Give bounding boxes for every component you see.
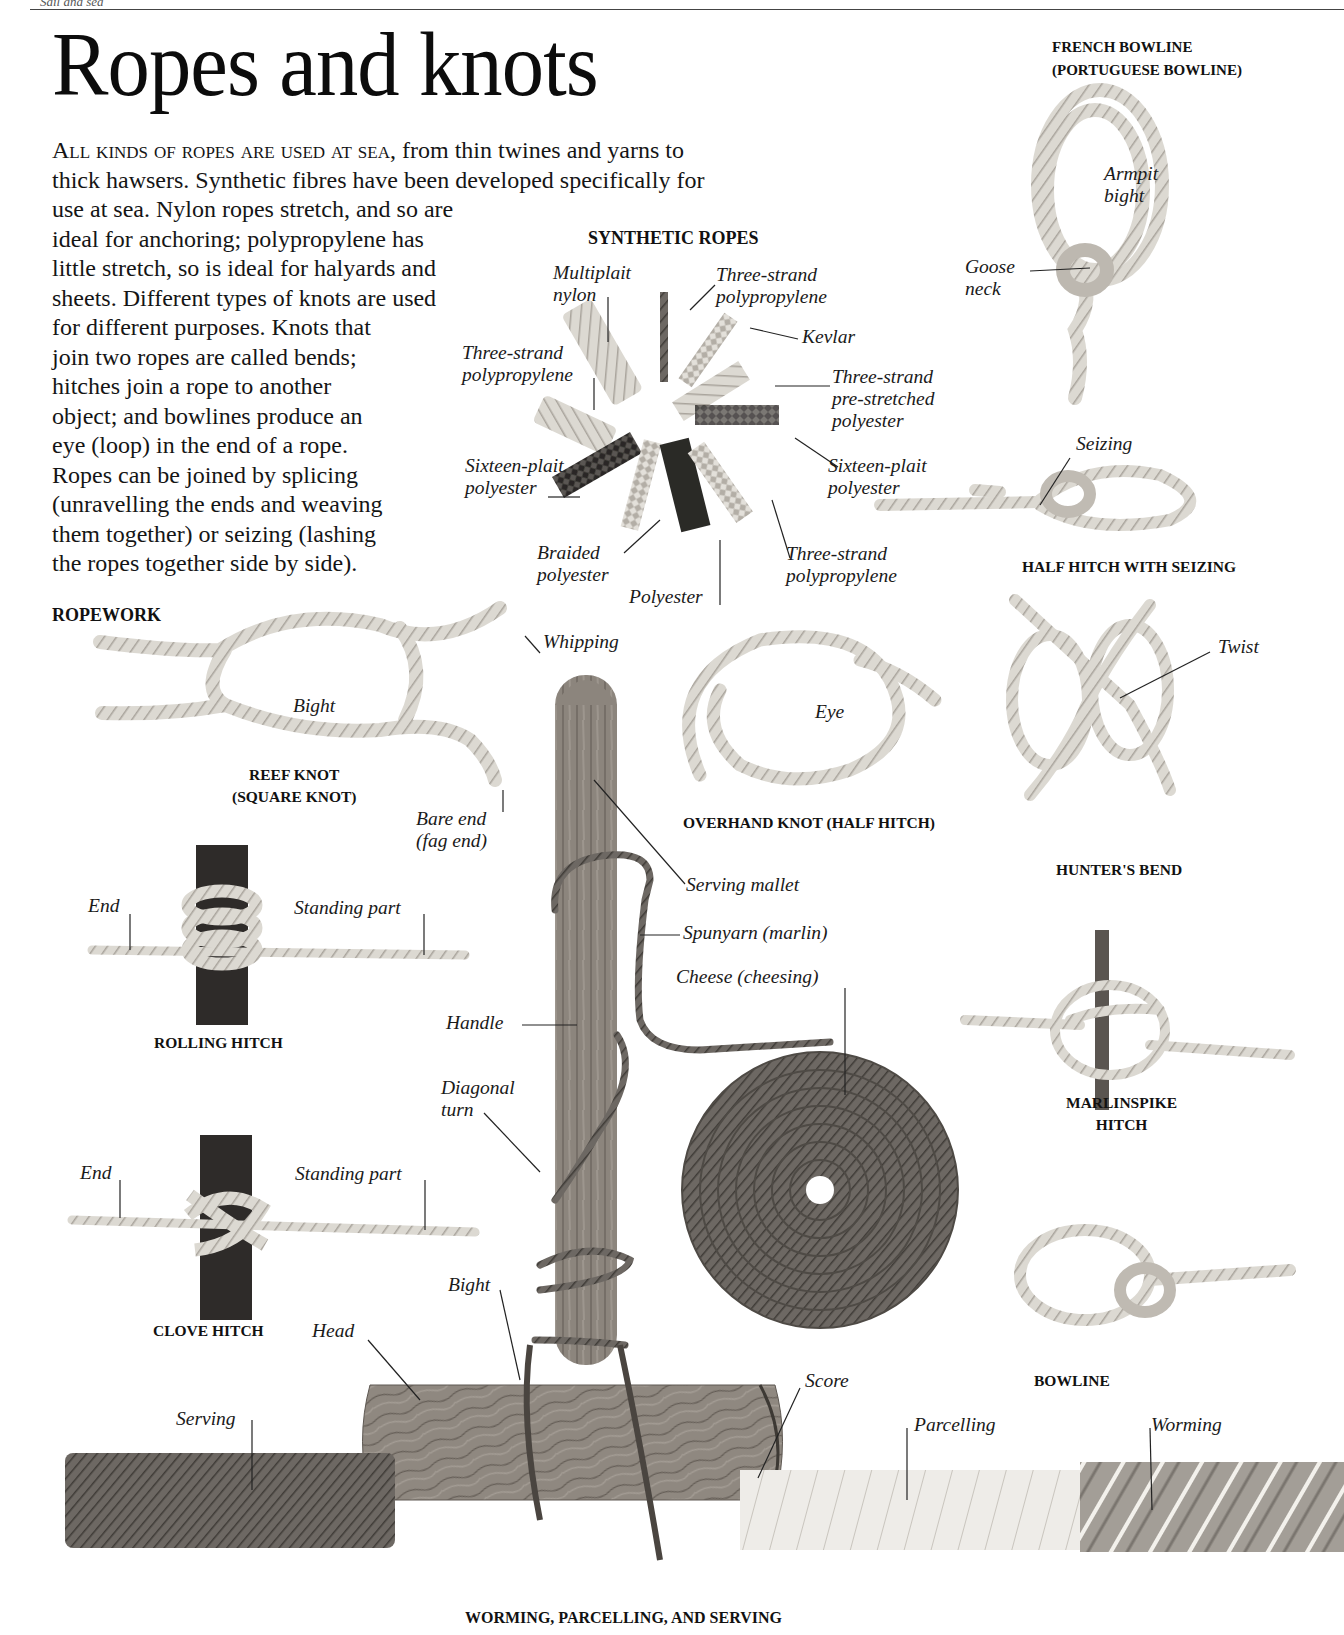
label-eye: Eye [815,701,844,723]
half-hitch-seizing-caption: HALF HITCH WITH SEIZING [1022,556,1236,578]
intro-line: for different purposes. Knots that [52,313,812,343]
intro-line: Ropes can be joined by splicing [52,461,812,491]
label-three-strand-polypropylene-top: Three-strand polypropylene [716,264,827,308]
label-head: Head [312,1320,354,1342]
reef-knot-caption: REEF KNOT (SQUARE KNOT) [232,764,356,808]
label-polyester: Polyester [629,586,703,608]
label-worming: Worming [1151,1414,1222,1436]
label-bare-end: Bare end (fag end) [416,808,487,852]
label-sixteen-plait-left: Sixteen-plait polyester [465,455,564,499]
label-three-strand-polypropylene-bottom: Three-strand polypropylene [786,543,897,587]
label-score: Score [805,1370,849,1392]
worming-parcelling-serving-caption: WORMING, PARCELLING, AND SERVING [465,1607,782,1629]
label-end-clove: End [80,1162,111,1184]
intro-line: the ropes together side by side). [52,549,812,579]
label-end-rolling: End [88,895,119,917]
label-goose-neck: Goose neck [965,256,1015,300]
intro-line: eye (loop) in the end of a rope. [52,431,812,461]
label-armpit-bight: Armpit bight [1104,163,1158,207]
label-diagonal-turn: Diagonal turn [441,1077,515,1121]
label-sixteen-plait-right: Sixteen-plait polyester [828,455,927,499]
intro-line: use at sea. Nylon ropes stretch, and so … [52,195,812,225]
ropework-heading: ROPEWORK [52,605,161,626]
intro-line-1: All kinds of ropes are used at sea, from… [52,136,812,166]
intro-line: them together) or seizing (lashing [52,520,812,550]
label-three-strand-polypropylene-left: Three-strand polypropylene [462,342,573,386]
label-multiplait-nylon: Multiplait nylon [553,262,631,306]
label-serving-mallet: Serving mallet [686,874,799,896]
cheese-coil-art [682,1052,958,1328]
hunters-bend-art [1012,600,1170,795]
label-seizing: Seizing [1076,433,1132,455]
label-braided-polyester: Braided polyester [537,542,608,586]
rolling-hitch-art [92,845,465,1025]
french-bowline-caption: FRENCH BOWLINE (PORTUGUESE BOWLINE) [1052,36,1242,82]
intro-line: (unravelling the ends and weaving [52,490,812,520]
clove-hitch-caption: CLOVE HITCH [153,1320,264,1342]
label-bight-mallet: Bight [448,1274,490,1296]
bowline-caption: BOWLINE [1034,1370,1110,1392]
label-whipping: Whipping [543,631,619,653]
label-serving: Serving [176,1408,236,1430]
overhand-knot-art [689,637,935,779]
label-bight-reef: Bight [293,695,335,717]
bowline-art [1020,1230,1290,1320]
marlinspike-hitch-caption: MARLINSPIKE HITCH [1066,1092,1177,1136]
intro-line: little stretch, so is ideal for halyards… [52,254,812,284]
label-cheese: Cheese (cheesing) [676,966,818,988]
french-bowline-art [1038,90,1162,398]
synthetic-ropes-heading: SYNTHETIC ROPES [588,228,759,249]
page-title: Ropes and knots [52,18,598,110]
overhand-knot-caption: OVERHAND KNOT (HALF HITCH) [683,812,935,834]
intro-paragraph: All kinds of ropes are used at sea, from… [52,136,812,579]
intro-lead-caps: All kinds of ropes are used at sea [52,137,390,163]
intro-line: object; and bowlines produce an [52,402,812,432]
label-twist: Twist [1218,636,1259,658]
label-standing-part-rolling: Standing part [294,897,401,919]
label-standing-part-clove: Standing part [295,1163,402,1185]
label-parcelling: Parcelling [914,1414,996,1436]
intro-line: join two ropes are called bends; [52,343,812,373]
clove-hitch-art [72,1135,475,1320]
intro-line: thick hawsers. Synthetic fibres have bee… [52,166,812,196]
label-three-strand-pre-stretched: Three-strand pre-stretched polyester [832,366,935,432]
label-kevlar: Kevlar [802,326,855,348]
intro-line: hitches join a rope to another [52,372,812,402]
label-handle: Handle [446,1012,503,1034]
intro-line: sheets. Different types of knots are use… [52,284,812,314]
reef-knot-art [100,608,500,780]
hunters-bend-caption: HUNTER'S BEND [1056,859,1182,881]
label-spunyarn: Spunyarn (marlin) [683,922,828,944]
marlinspike-hitch-art [965,930,1290,1110]
rolling-hitch-caption: ROLLING HITCH [154,1032,283,1054]
